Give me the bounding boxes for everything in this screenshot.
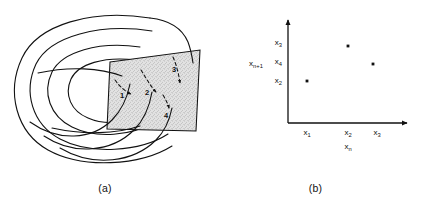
y-axis-title: xn+1 — [249, 59, 263, 69]
data-point-2 — [372, 63, 375, 66]
crossing-label-3: 3 — [172, 65, 176, 74]
crossing-label-2: 2 — [145, 88, 149, 97]
panel-a-caption: (a) — [0, 182, 210, 194]
y-tick-label-0: x3 — [275, 38, 282, 48]
panel-b-caption: (b) — [210, 182, 421, 194]
x-tick-label-2: x3 — [373, 128, 380, 138]
panel-a-drawing: 1 2 3 4 — [0, 0, 210, 206]
figure-root: 1 2 3 4 (a) x3 — [0, 0, 421, 206]
panel-b-return-map: x3 x4 x2 xn+1 x1 x2 — [210, 0, 421, 206]
panel-a-poincare-section: 1 2 3 4 (a) — [0, 0, 210, 206]
crossing-label-1: 1 — [120, 91, 124, 100]
x-tick-label-1: x2 — [344, 128, 351, 138]
x-axis-tick-labels: x1 x2 x3 — [303, 128, 380, 138]
y-tick-label-1: x4 — [275, 57, 283, 67]
y-axis-tick-labels: x3 x4 x2 — [275, 38, 283, 86]
x-tick-label-0: x1 — [303, 128, 310, 138]
plot-axes — [288, 20, 407, 123]
y-tick-label-2: x2 — [275, 76, 282, 86]
data-point-1 — [347, 45, 350, 48]
data-point-0 — [306, 80, 309, 83]
x-axis-title: xn — [344, 142, 351, 152]
return-map-points — [306, 45, 375, 83]
panel-b-drawing: x3 x4 x2 xn+1 x1 x2 — [210, 0, 421, 206]
